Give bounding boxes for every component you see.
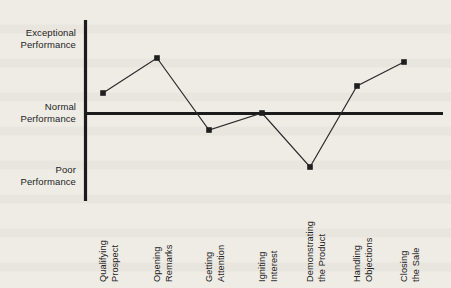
data-point-marker (307, 164, 313, 170)
x-axis-label-demonstrating-the-product: Demonstrating the Product (305, 212, 328, 282)
data-point-marker (354, 83, 360, 89)
x-axis-label-igniting-interest: Igniting Interest (257, 216, 280, 282)
data-point-marker (259, 110, 265, 116)
y-axis-label-exceptional: Exceptional Performance (0, 27, 76, 51)
performance-line-chart: Exceptional Performance Normal Performan… (0, 0, 451, 288)
x-axis-label-getting-attention: Getting Attention (204, 216, 227, 282)
y-axis-label-normal: Normal Performance (0, 101, 76, 125)
x-axis-label-opening-remarks: Opening Remarks (152, 216, 175, 282)
x-axis-label-closing-the-sale: Closing the Sale (399, 216, 422, 282)
x-axis-label-qualifying-prospect: Qualifying Prospect (98, 216, 121, 282)
data-point-marker (154, 55, 160, 61)
y-axis-label-poor: Poor Performance (0, 164, 76, 188)
data-point-marker (100, 90, 106, 96)
data-point-marker (401, 59, 407, 65)
data-point-marker (206, 127, 212, 133)
x-axis-label-handling-objections: Handling Objections (352, 216, 375, 282)
